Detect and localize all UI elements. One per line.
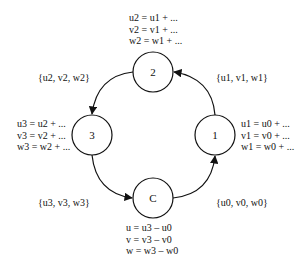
node-3-label: 3 [72,129,112,141]
equation-line: v = v3 – v0 [126,234,178,246]
equation-line: v2 = v1 + ... [129,24,182,36]
node-2-equations: u2 = u1 + ... v2 = v1 + ... w2 = w1 + ..… [129,12,182,47]
edge-label-2-to-3: {u2, v2, w2} [38,72,90,84]
node-c-label: C [133,192,173,204]
equation-line: u1 = u0 + ... [241,118,294,130]
edge-label-c-to-1: {u0, v0, w0} [216,197,268,209]
edge-c-to-1 [173,156,215,198]
edge-1-to-2 [174,72,215,115]
equation-line: v1 = v0 + ... [241,130,294,142]
equation-line: v3 = v2 + ... [17,130,70,142]
edge-2-to-3 [92,72,133,114]
equation-line: w = w3 – w0 [126,245,178,257]
edge-label-3-to-c: {u3, v3, w3} [38,197,90,209]
node-c-equations: u = u3 – u0 v = v3 – v0 w = w3 – w0 [126,222,178,257]
equation-line: u3 = u2 + ... [17,118,70,130]
edge-label-1-to-2: {u1, v1, w1} [216,72,268,84]
node-3-equations: u3 = u2 + ... v3 = v2 + ... w3 = w2 + ..… [17,118,70,153]
node-2-label: 2 [133,66,173,78]
equation-line: u = u3 – u0 [126,222,178,234]
node-1-equations: u1 = u0 + ... v1 = v0 + ... w1 = w0 + ..… [241,118,294,153]
equation-line: w3 = w2 + ... [17,141,70,153]
equation-line: w1 = w0 + ... [241,141,294,153]
equation-line: u2 = u1 + ... [129,12,182,24]
equation-line: w2 = w1 + ... [129,35,182,47]
edge-3-to-c [92,155,132,198]
node-1-label: 1 [195,129,235,141]
